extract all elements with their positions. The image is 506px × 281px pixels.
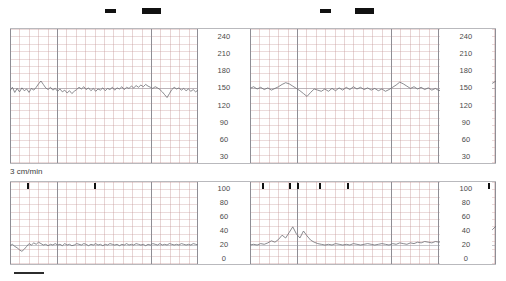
fhr-scale-center-tick-60: 60 (198, 136, 250, 144)
toco-event-tick (297, 183, 299, 189)
fhr-trace-left-path (10, 81, 198, 98)
fhr-scale-center-tick-150: 150 (198, 84, 250, 92)
fhr-scale-center-tick-30: 30 (198, 153, 250, 161)
fhr-scale-right: 240210180150120906030 (440, 29, 492, 163)
toco-scale-right-tick-80: 80 (440, 199, 492, 207)
toco-scale-center-tick-20: 20 (198, 241, 250, 249)
fhr-scale-center-tick-180: 180 (198, 67, 250, 75)
fhr-scale-center-tick-90: 90 (198, 119, 250, 127)
fhr-trace-left (10, 29, 198, 163)
fhr-scale-center-tick-210: 210 (198, 50, 250, 58)
fhr-scale-right-tick-90: 90 (440, 119, 492, 127)
toco-scale-right: 100806040200 (440, 182, 492, 264)
toco-event-tick (347, 183, 349, 189)
toco-scale-center-tick-80: 80 (198, 199, 250, 207)
fhr-scale-center: 240210180150120906030 (198, 29, 250, 163)
toco-trace-left (10, 182, 198, 264)
toco-scale-right-tick-0: 0 (440, 255, 492, 263)
toco-event-tick (262, 183, 264, 189)
fhr-scale-center-tick-240: 240 (198, 33, 250, 41)
toco-scale-center-tick-100: 100 (198, 185, 250, 193)
toco-trace-left-path (10, 242, 198, 251)
fhr-scale-right-tick-120: 120 (440, 102, 492, 110)
fhr-panel[interactable]: 240210180150120906030 240210180150120906… (10, 28, 496, 164)
toco-scale-right-tick-60: 60 (440, 213, 492, 221)
event-marker-dash (320, 9, 331, 13)
event-marker-dash (105, 9, 116, 13)
toco-scale-center-tick-0: 0 (198, 255, 250, 263)
event-marker-dash (142, 8, 161, 14)
toco-scale-right-tick-20: 20 (440, 241, 492, 249)
toco-event-tick (319, 183, 321, 189)
event-marker-dash (355, 8, 374, 14)
fhr-scale-center-tick-120: 120 (198, 102, 250, 110)
event-marker-row (0, 0, 506, 14)
toco-channel-left[interactable] (10, 182, 198, 264)
fhr-scale-right-tick-210: 210 (440, 50, 492, 58)
toco-panel[interactable]: 100806040200 100806040200 (10, 181, 496, 265)
toco-scale-right-tick-40: 40 (440, 227, 492, 235)
toco-event-tick (27, 183, 29, 189)
fhr-scale-right-tick-180: 180 (440, 67, 492, 75)
footer-scale-bar (14, 272, 44, 274)
toco-scale-center: 100806040200 (198, 182, 250, 264)
fhr-scale-right-tick-150: 150 (440, 84, 492, 92)
toco-scale-center-tick-40: 40 (198, 227, 250, 235)
paper-speed-label: 3 cm/min (10, 167, 42, 177)
fhr-scale-right-tick-60: 60 (440, 136, 492, 144)
toco-event-tick (488, 183, 490, 189)
fhr-scale-right-tick-240: 240 (440, 33, 492, 41)
ctg-strip: 240210180150120906030 240210180150120906… (0, 0, 506, 281)
toco-scale-center-tick-60: 60 (198, 213, 250, 221)
toco-event-tick (289, 183, 291, 189)
toco-scale-right-tick-100: 100 (440, 185, 492, 193)
toco-event-tick (94, 183, 96, 189)
fhr-scale-right-tick-30: 30 (440, 153, 492, 161)
fhr-channel-left[interactable] (10, 29, 198, 163)
